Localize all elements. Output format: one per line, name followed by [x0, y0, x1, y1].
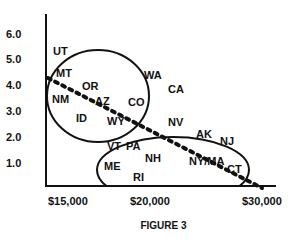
- label-co: CO: [128, 97, 145, 108]
- x-tick-15000: $15,000: [48, 196, 88, 207]
- y-tick-3: 3.0: [6, 106, 21, 117]
- x-tick-30000: $30,000: [242, 196, 282, 207]
- label-me: ME: [104, 161, 121, 172]
- label-nv: NV: [168, 117, 183, 128]
- label-or: OR: [82, 81, 99, 92]
- label-nh: NH: [145, 153, 161, 164]
- label-ak: AK: [196, 129, 212, 140]
- label-az: AZ: [95, 96, 110, 107]
- label-ny-ma: NY/MA: [189, 156, 224, 167]
- y-tick-6: 6.0: [6, 29, 21, 40]
- label-mt: MT: [56, 68, 72, 79]
- label-wa: WA: [144, 70, 162, 81]
- y-tick-1: 1.0: [6, 158, 21, 169]
- label-ca: CA: [168, 84, 184, 95]
- y-tick-2: 2.0: [6, 132, 21, 143]
- label-pa: PA: [126, 141, 140, 152]
- y-tick-5: 5.0: [6, 54, 21, 65]
- label-nj: NJ: [220, 136, 234, 147]
- label-wy: WY: [107, 116, 125, 127]
- label-nm: NM: [52, 94, 69, 105]
- label-id: ID: [76, 113, 87, 124]
- figure-caption: FIGURE 3: [0, 220, 297, 231]
- label-ut: UT: [53, 46, 68, 57]
- label-ct: CT: [227, 164, 242, 175]
- label-ri: RI: [133, 172, 144, 183]
- label-vt: VT: [107, 141, 121, 152]
- y-tick-4: 4.0: [6, 80, 21, 91]
- x-tick-20000: $20,000: [130, 196, 170, 207]
